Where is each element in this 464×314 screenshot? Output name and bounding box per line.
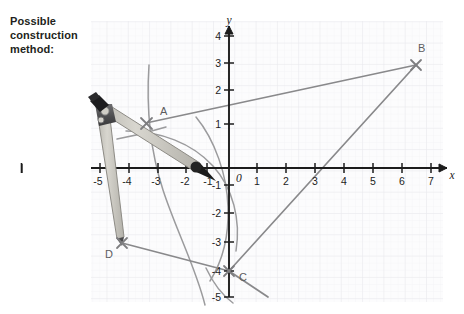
x-axis-label: x xyxy=(448,169,455,181)
x-tick-label: 5 xyxy=(370,175,376,187)
x-tick-label: 7 xyxy=(428,175,434,187)
origin-label: 0 xyxy=(236,172,242,184)
point-label-b: B xyxy=(418,42,425,54)
y-tick-label: -3 xyxy=(212,236,221,248)
x-tick-label: 2 xyxy=(283,175,289,187)
x-tick-label: -3 xyxy=(151,175,160,187)
y-tick-label: -4 xyxy=(212,265,221,277)
x-tick-label: -4 xyxy=(122,175,131,187)
compass-hinge-pin xyxy=(98,117,104,123)
compass-pencil-ferrule xyxy=(191,162,202,173)
point-label-c: C xyxy=(239,271,247,283)
plot-background xyxy=(91,21,443,302)
y-tick-label: 3 xyxy=(215,57,221,69)
point-label-d: D xyxy=(105,248,113,260)
y-tick-label: -1 xyxy=(212,179,221,191)
x-tick-label: -5 xyxy=(93,175,102,187)
x-tick-label: 4 xyxy=(341,175,347,187)
x-tick-label: 3 xyxy=(312,175,318,187)
y-tick-label: -2 xyxy=(212,207,221,219)
y-tick-label: 4 xyxy=(215,30,221,42)
x-tick-label: 1 xyxy=(254,175,260,187)
y-tick-label: -5 xyxy=(212,291,221,303)
y-axis-label: y xyxy=(225,14,232,27)
y-tick-label: 2 xyxy=(215,84,221,96)
construction-figure: -5 -4 -3 -2 -1 1 2 3 4 5 6 7 4 3 2 1 -1 … xyxy=(0,0,464,314)
x-tick-label: 6 xyxy=(399,175,405,187)
point-label-a: A xyxy=(160,105,168,117)
x-tick-label: -2 xyxy=(180,175,189,187)
y-tick-label: 1 xyxy=(215,118,221,130)
